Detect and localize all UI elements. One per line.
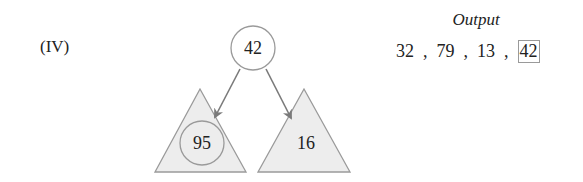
output-sequence: 32 , 79 , 13 , 42 xyxy=(396,40,540,63)
output-item-highlighted: 42 xyxy=(518,40,540,63)
output-title: Output xyxy=(446,10,506,30)
root-node-value: 42 xyxy=(244,38,262,58)
output-item: 13 xyxy=(477,41,495,62)
output-item: 32 xyxy=(396,41,414,62)
left-edge-arrow xyxy=(215,69,240,117)
separator: , xyxy=(464,41,469,62)
root-node: 42 xyxy=(231,26,275,70)
separator: , xyxy=(504,41,509,62)
left-subtree-triangle xyxy=(155,89,246,172)
left-child-value: 95 xyxy=(193,133,211,153)
right-subtree-triangle xyxy=(258,89,350,172)
right-subtree-value: 16 xyxy=(297,133,315,153)
separator: , xyxy=(423,41,428,62)
output-item: 79 xyxy=(437,41,455,62)
right-edge-arrow xyxy=(266,69,291,118)
